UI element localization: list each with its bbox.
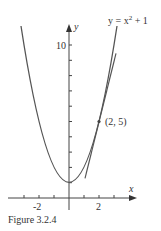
x-axis-label: x [128,183,134,194]
figure-caption: Figure 3.2.4 [8,214,57,225]
curve-label-prefix: y = x [108,15,129,26]
point-label: (2, 5) [105,116,127,128]
curve-label-suffix: + 1 [132,15,148,26]
y-axis-label: y [73,21,79,32]
x-axis-arrow-icon [129,195,137,201]
y-axis-arrow-icon [66,24,72,32]
y-tick-label-10: 10 [56,40,66,51]
tangent-point-marker [97,120,100,123]
curve-label: y = x2 + 1 [108,14,148,26]
figure-plot: (2, 5) y = x2 + 1 x y -2 2 10 [0,0,161,231]
x-tick-label-neg2: -2 [33,201,41,212]
x-tick-label-2: 2 [96,201,101,212]
